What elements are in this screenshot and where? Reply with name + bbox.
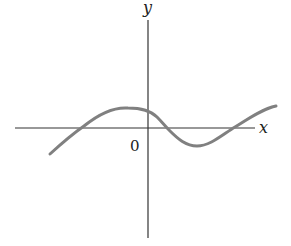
function-curve (50, 106, 276, 154)
x-axis-label: x (259, 118, 268, 137)
origin-label: 0 (130, 137, 140, 155)
y-axis-label: y (142, 0, 153, 17)
function-graph: x y 0 (0, 0, 291, 246)
